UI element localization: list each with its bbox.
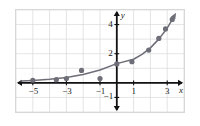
x-tick-label: 1 <box>132 87 137 96</box>
plot-canvas <box>16 10 184 112</box>
y-axis-arrow-up <box>114 11 120 16</box>
x-axis-label: x <box>179 86 183 95</box>
data-point <box>163 26 168 31</box>
data-point <box>114 61 119 66</box>
data-point <box>79 68 84 73</box>
data-point <box>129 59 134 64</box>
plot-frame <box>15 9 185 113</box>
data-point <box>97 76 102 81</box>
data-point <box>54 77 59 82</box>
y-axis-arrow-down <box>114 106 120 111</box>
x-tick-label: −3 <box>62 87 72 96</box>
x-tick-label: 3 <box>165 87 170 96</box>
y-tick-label: 4 <box>108 20 113 29</box>
y-tick-label: 2 <box>108 49 113 58</box>
data-point <box>170 17 175 22</box>
y-axis-label: y <box>121 11 125 20</box>
x-tick-label: −5 <box>29 87 39 96</box>
figure-container: −5−3−11342−1xy <box>0 0 200 126</box>
data-point <box>64 76 69 81</box>
data-point <box>156 36 161 41</box>
data-point <box>30 78 35 83</box>
data-point <box>146 47 151 52</box>
y-tick-label: −1 <box>104 92 114 101</box>
